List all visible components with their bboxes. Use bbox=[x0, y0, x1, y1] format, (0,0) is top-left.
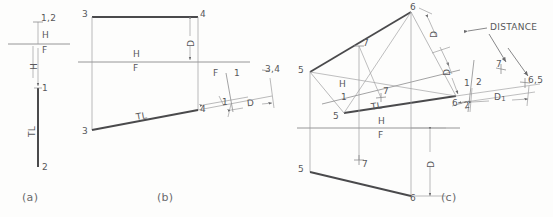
panel-c-top-point-6: 6 bbox=[410, 3, 416, 12]
panel-b-top-left-3: 3 bbox=[82, 10, 88, 19]
panel-b-linework bbox=[78, 17, 274, 130]
panel-c-fold-h1-1: 1 bbox=[341, 93, 347, 102]
panel-a-fold-f: F bbox=[42, 46, 47, 55]
panel-c-fold-hf-f: F bbox=[378, 131, 383, 140]
panel-a-linework bbox=[8, 22, 70, 167]
panel-c-dim-d1: D1 bbox=[494, 93, 506, 103]
panel-b-aux-fold-1: 1 bbox=[234, 69, 240, 78]
panel-c-dim-d1-subscript: 1 bbox=[501, 95, 506, 103]
panel-c-top-point-7-upper: 7 bbox=[363, 39, 369, 48]
panel-c-aux-point-7: 7 bbox=[496, 60, 502, 69]
panel-a-point-1: 1 bbox=[42, 84, 48, 93]
panel-c-front-point-7: 7 bbox=[362, 160, 368, 169]
panel-b-front-right-4: 4 bbox=[200, 105, 206, 114]
panel-c-true-length: TL bbox=[370, 101, 382, 112]
panel-c-label: (c) bbox=[441, 192, 457, 203]
panel-b-aux-point-3-4: 3,4 bbox=[265, 65, 280, 74]
panel-b-top-right-4: 4 bbox=[200, 10, 206, 19]
panel-c-fold-h1-h: H bbox=[339, 80, 346, 89]
panel-c-top-point-5-left: 5 bbox=[298, 66, 304, 75]
panel-c-front-point-5: 5 bbox=[298, 165, 304, 174]
panel-a-point-2: 2 bbox=[42, 163, 48, 172]
panel-b-aux-fold-f: F bbox=[213, 69, 218, 78]
panel-a-point-1-2: 1,2 bbox=[41, 14, 56, 23]
panel-c-aux-point-6-5: 6,5 bbox=[528, 76, 543, 85]
panel-b-dim-d: D bbox=[187, 40, 196, 47]
panel-b-fold-h: H bbox=[133, 50, 140, 59]
panel-c-distance-label: DISTANCE bbox=[490, 23, 537, 32]
panel-c-fold-hf-h: H bbox=[378, 117, 385, 126]
panel-b-label: (b) bbox=[157, 192, 173, 203]
panel-b-aux-dim-d: D bbox=[247, 99, 255, 109]
panel-b-aux-tick-1: 1 bbox=[222, 98, 228, 107]
panel-c-dim-d-upper: D bbox=[430, 31, 439, 38]
figure-canvas: 1,2 H F H 1 TL 2 (a) 3 4 H F D 3 4 TL F … bbox=[0, 0, 553, 217]
panel-c-dim-d-lower: D bbox=[443, 69, 452, 76]
panel-b-front-left-3: 3 bbox=[82, 127, 88, 136]
panel-a-label: (a) bbox=[22, 192, 38, 203]
panel-a-dim-h: H bbox=[30, 63, 39, 70]
panel-c-front-point-6: 6 bbox=[410, 194, 416, 203]
panel-c-tick-2: 2 bbox=[463, 101, 471, 111]
panel-b-true-length: TL bbox=[135, 111, 148, 122]
panel-b-fold-f: F bbox=[133, 64, 138, 73]
panel-c-top-point-5-lower: 5 bbox=[333, 112, 339, 121]
panel-c-fold-12-2: 2 bbox=[476, 78, 482, 87]
panel-a-true-length: TL bbox=[28, 126, 37, 137]
panel-c-dim-d-front: D bbox=[427, 161, 436, 168]
panel-a-fold-h: H bbox=[42, 31, 49, 40]
panel-c-aux-point-6: 6 bbox=[452, 99, 458, 108]
panel-c-top-point-7-lower: 7 bbox=[383, 87, 389, 96]
panel-c-fold-12-1: 1 bbox=[464, 79, 470, 88]
